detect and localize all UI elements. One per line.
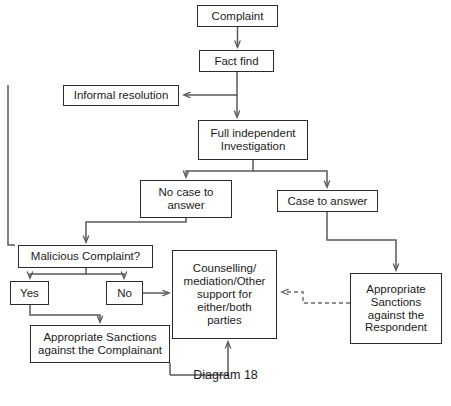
node-counselling-mediation-support[interactable]: Counselling/ mediation/Other support for… [172, 250, 277, 339]
edge-case-respondentsanctions [327, 212, 396, 270]
edge-malicious-no [86, 274, 124, 278]
node-no[interactable]: No [106, 281, 143, 305]
edge-investigation-case [253, 171, 327, 187]
node-sanctions-against-complainant[interactable]: Appropriate Sanctions against the Compla… [30, 325, 170, 363]
node-fact-find[interactable]: Fact find [199, 50, 274, 72]
node-no-case-to-answer[interactable]: No case to answer [140, 180, 232, 218]
edge-malicious-yes [30, 268, 86, 278]
edge-respondentsanctions-counselling [282, 292, 350, 303]
edge-factfind-informal [184, 72, 237, 95]
node-full-independent-investigation[interactable]: Full independent Investigation [198, 120, 308, 160]
edge-yes-sanctions [30, 305, 100, 322]
node-complaint[interactable]: Complaint [197, 5, 278, 27]
edge-informal-return [8, 85, 15, 245]
diagram-caption: Diagram 18 [0, 368, 451, 382]
node-malicious-complaint[interactable]: Malicious Complaint? [18, 245, 153, 268]
flowchart-canvas: Complaint Fact find Informal resolution … [0, 0, 451, 406]
node-sanctions-against-respondent[interactable]: Appropriate Sanctions against the Respon… [350, 273, 442, 344]
node-case-to-answer[interactable]: Case to answer [277, 190, 378, 212]
node-informal-resolution[interactable]: Informal resolution [63, 85, 179, 106]
edge-investigation-nocase [186, 160, 253, 177]
edge-nocase-malicious [86, 218, 186, 242]
node-yes[interactable]: Yes [10, 281, 49, 305]
